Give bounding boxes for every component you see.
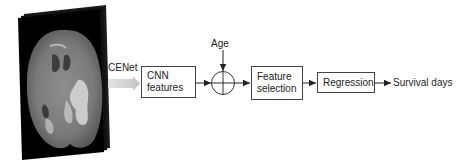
cnn-features-line1: CNN xyxy=(147,70,195,82)
sum-junction-icon xyxy=(212,72,235,95)
regression-label: Regression xyxy=(323,77,374,89)
diagram-graphics xyxy=(0,0,461,161)
regression-box: Regression xyxy=(317,72,375,93)
brain-image xyxy=(27,30,102,148)
feature-selection-line2: selection xyxy=(257,83,302,95)
pipeline-diagram: CENet CNN features Age Feature selection… xyxy=(0,0,461,161)
cenet-wide-arrow xyxy=(108,76,140,91)
survival-days-label: Survival days xyxy=(393,77,452,88)
cenet-label: CENet xyxy=(108,62,137,73)
feature-selection-line1: Feature xyxy=(257,71,302,83)
cnn-features-box: CNN features xyxy=(141,66,196,98)
cnn-features-line2: features xyxy=(147,82,195,94)
feature-selection-box: Feature selection xyxy=(251,66,303,100)
age-label: Age xyxy=(211,38,229,49)
mri-slice-stack xyxy=(18,5,110,160)
